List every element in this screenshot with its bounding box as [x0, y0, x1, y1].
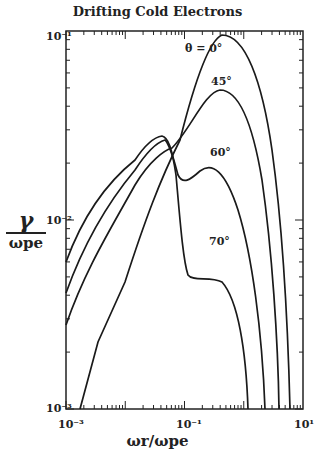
y-label-numerator: γ [6, 208, 46, 234]
x-tick-mid: 10⁻¹ [176, 418, 202, 431]
y-axis-label: γ ωpe [6, 208, 46, 252]
curve-theta-0 [80, 35, 290, 409]
curve-theta-60 [66, 140, 265, 409]
y-tick-mid: 10⁻² [46, 214, 72, 227]
annotation-70: 70° [209, 235, 230, 248]
x-tick-left: 10⁻³ [58, 418, 84, 431]
annotation-45: 45° [211, 75, 232, 88]
y-label-denominator: ωpe [6, 234, 46, 252]
annotation-60: 60° [210, 146, 231, 159]
y-tick-top: 10⁻¹ [46, 30, 72, 43]
curve-theta-70 [66, 136, 248, 409]
curves [66, 35, 290, 409]
x-tick-right: 10¹ [294, 418, 314, 431]
y-tick-bottom: 10⁻³ [46, 402, 72, 415]
plot-area: 10⁻¹ 10⁻² 10⁻³ 10⁻³ 10⁻¹ 10¹ θ = 0° 45° … [0, 0, 315, 455]
x-axis-label: ωr/ωpe [0, 432, 315, 450]
annotation-theta-0: θ = 0° [185, 42, 222, 55]
